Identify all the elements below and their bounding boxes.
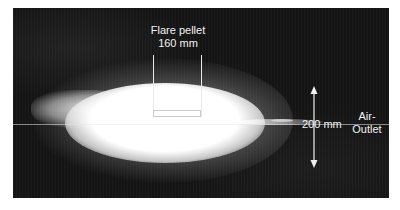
flare-trail-spot [271,119,293,122]
air-outlet-line2: Outlet [346,123,388,136]
pellet-label-title: Flare pellet [130,24,226,37]
dimension-label: 200 mm [302,118,342,131]
pellet-label: Flare pellet 160 mm [130,24,226,50]
pellet-right-marker [201,55,202,117]
flare-photograph: Flare pellet 160 mm 200 mm Air- Outlet [13,8,389,198]
pellet-outline [153,110,201,117]
pellet-left-marker [153,55,154,117]
air-outlet-line1: Air- [346,110,388,123]
air-outlet-label: Air- Outlet [346,110,388,136]
pellet-label-length: 160 mm [130,37,226,50]
